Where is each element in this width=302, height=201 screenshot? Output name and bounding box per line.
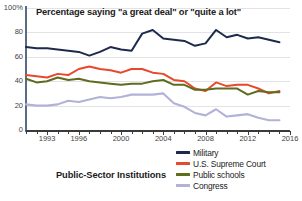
legend-swatch-public-schools [176, 173, 190, 176]
legend-item-military[interactable]: Military [176, 147, 266, 158]
legend-label-public-schools: Public schools [193, 170, 244, 180]
line-congress [26, 93, 279, 120]
chart-legend: MilitaryU.S. Supreme CourtPublic schools… [176, 147, 266, 191]
legend-swatch-military [176, 151, 190, 154]
line-military [26, 30, 279, 56]
chart-container: 100% 80 60 40 20 0 199319962000200420082… [0, 0, 302, 201]
legend-swatch-congress [176, 184, 190, 187]
legend-item-congress[interactable]: Congress [176, 180, 266, 191]
chart-title: Percentage saying "a great deal" or "qui… [36, 7, 241, 17]
legend-item-u-s-supreme-court[interactable]: U.S. Supreme Court [176, 158, 266, 169]
legend-swatch-u-s-supreme-court [176, 162, 190, 165]
line-public-schools [26, 78, 279, 95]
legend-label-congress: Congress [193, 181, 228, 191]
chart-caption: Public-Sector Institutions [56, 170, 166, 180]
legend-label-military: Military [193, 148, 218, 158]
legend-item-public-schools[interactable]: Public schools [176, 169, 266, 180]
legend-label-u-s-supreme-court: U.S. Supreme Court [193, 159, 266, 169]
